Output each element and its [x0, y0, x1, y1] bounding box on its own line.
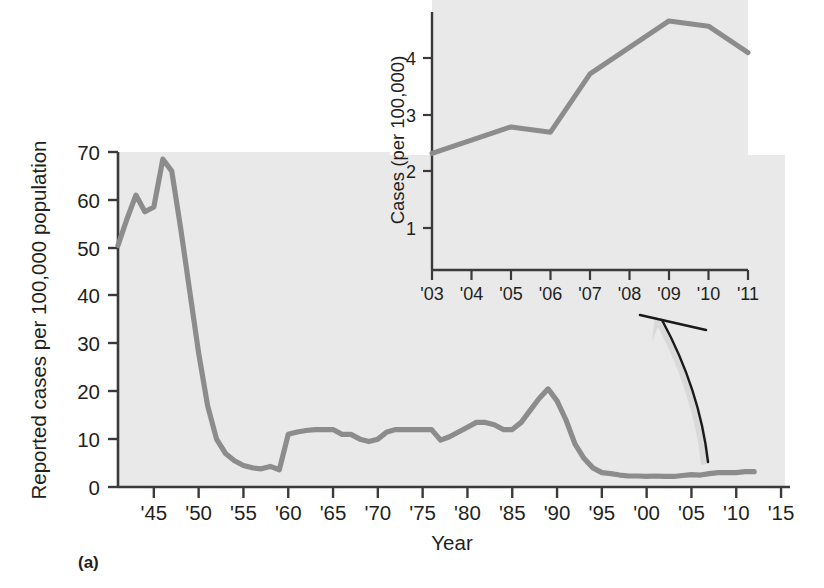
inset-x-tick-label: '11: [737, 284, 759, 304]
figure-panel-a: 70 60 50 40 30 20 10 0 '45'50'55'60'65'7…: [0, 0, 824, 588]
main-x-tick-label: '70: [364, 501, 391, 524]
main-y-axis-title: Reported cases per 100,000 population: [27, 140, 50, 499]
main-y-tick-label: 50: [77, 237, 100, 260]
inset-x-tick-label: '10: [697, 284, 720, 304]
main-x-tick-label: '80: [454, 501, 481, 524]
main-x-tick-labels: '45'50'55'60'65'70'75'80'85'90'95'00'05'…: [140, 501, 794, 524]
main-y-tick-label: 40: [77, 284, 100, 307]
inset-x-tick-label: '06: [539, 284, 562, 304]
main-y-ticks: [108, 152, 118, 487]
inset-x-tick-labels: '03'04'05'06'07'08'09'10'11: [420, 284, 759, 304]
inset-x-tick-label: '03: [420, 284, 443, 304]
inset-x-tick-label: '04: [460, 284, 483, 304]
main-x-tick-label: '15: [768, 501, 795, 524]
inset-x-tick-label: '08: [618, 284, 641, 304]
main-y-tick-label: 0: [89, 476, 100, 499]
main-x-tick-label: '85: [499, 501, 526, 524]
main-x-tick-label: '05: [678, 501, 705, 524]
main-x-tick-label: '45: [140, 501, 167, 524]
main-y-tick-label: 30: [77, 332, 100, 355]
inset-x-tick-label: '05: [499, 284, 522, 304]
figure-caption: (a): [78, 553, 99, 572]
main-x-tick-label: '55: [230, 501, 257, 524]
main-x-tick-label: '90: [544, 501, 571, 524]
main-x-tick-label: '65: [320, 501, 347, 524]
main-y-tick-labels: 70 60 50 40 30 20 10 0: [77, 141, 100, 499]
main-x-tick-label: '95: [588, 501, 615, 524]
main-x-tick-label: '75: [409, 501, 436, 524]
main-x-tick-label: '60: [275, 501, 302, 524]
inset-y-axis-title: Cases (per 100,000): [387, 56, 408, 225]
chart-svg: 70 60 50 40 30 20 10 0 '45'50'55'60'65'7…: [0, 0, 824, 588]
main-x-tick-label: '00: [633, 501, 660, 524]
main-x-ticks: [154, 487, 781, 498]
inset-x-tick-label: '07: [578, 284, 601, 304]
main-y-tick-label: 20: [77, 380, 100, 403]
panel-backgrounds: [118, 0, 788, 487]
main-x-tick-label: '50: [185, 501, 212, 524]
main-y-tick-label: 70: [77, 141, 100, 164]
main-x-axis-title: Year: [431, 531, 473, 554]
main-y-tick-label: 10: [77, 428, 100, 451]
main-y-tick-label: 60: [77, 189, 100, 212]
main-x-tick-label: '10: [723, 501, 750, 524]
inset-x-tick-label: '09: [657, 284, 680, 304]
inset-right-gutter: [748, 0, 788, 155]
